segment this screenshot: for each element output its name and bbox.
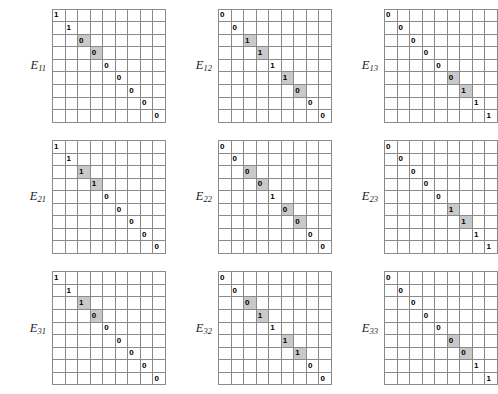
matrix-cell-value: 0 [320,375,324,383]
matrix-cell [435,310,448,323]
matrix-cell-diagonal: 0 [435,323,448,336]
matrix-cell [473,85,486,98]
matrix-cell [282,272,295,285]
matrix-label-e21: E21 [0,189,52,204]
matrix-cell [66,373,79,386]
matrix-cell-diagonal: 0 [219,10,232,23]
matrix-cell [307,47,320,60]
matrix-cell-diagonal: 0 [385,10,398,23]
matrix-cell-value: 0 [104,324,108,332]
matrix-cell [307,35,320,48]
matrix-cell [398,85,411,98]
matrix-cell [282,166,295,179]
matrix-cell [244,373,257,386]
matrix-cell [66,348,79,361]
matrix-cell [91,141,104,154]
matrix-cell [269,216,282,229]
matrix-cell [460,35,473,48]
matrix-cell [116,272,129,285]
matrix-cell [448,297,461,310]
matrix-cell [257,216,270,229]
matrix-label-base: E [362,321,370,335]
matrix-cell [153,60,166,73]
matrix-cell [103,272,116,285]
matrix-cell [66,110,79,123]
matrix-label-base: E [30,58,38,72]
matrix-cell [153,323,166,336]
matrix-cell [103,360,116,373]
matrix-cell [53,335,66,348]
matrix-cell [423,154,436,167]
matrix-cell [385,335,398,348]
matrix-cell [385,360,398,373]
matrix-cell-value: 1 [461,87,465,95]
matrix-cell [53,47,66,60]
matrix-cell [410,10,423,23]
matrix-cell [398,272,411,285]
matrix-cell [294,297,307,310]
matrix-cell-diagonal: 0 [153,241,166,254]
matrix-cell-diagonal: 0 [232,285,245,298]
matrix-cell-diagonal: 0 [307,360,320,373]
matrix-cell [78,335,91,348]
matrix-cell [319,98,332,111]
matrix-cell [448,10,461,23]
matrix-cell [78,72,91,85]
matrix-cell [116,229,129,242]
matrix-cell [485,60,498,73]
matrix-cell [128,110,141,123]
matrix-cell [91,204,104,217]
matrix-cell-value: 0 [92,49,96,57]
matrix-cell [269,373,282,386]
matrix-cell [307,72,320,85]
matrix-cell [269,297,282,310]
matrix-cell [435,10,448,23]
matrix-cell [460,179,473,192]
matrix-cell [219,179,232,192]
matrix-cell [410,348,423,361]
matrix-cell [473,191,486,204]
matrix-cell [103,310,116,323]
matrix-cell [232,323,245,336]
matrix-cell [128,272,141,285]
matrix-cell [282,360,295,373]
matrix-cell-diagonal: 0 [128,85,141,98]
matrix-cell [269,204,282,217]
matrix-cell [244,285,257,298]
matrix-cell [398,10,411,23]
matrix-cell [141,110,154,123]
matrix-cell-diagonal: 0 [91,47,104,60]
matrix-cell [294,10,307,23]
matrix-cell [53,85,66,98]
matrix-cell-value: 0 [104,193,108,201]
matrix-cell-diagonal: 1 [91,179,104,192]
matrix-cell-diagonal: 1 [53,10,66,23]
matrix-cell [485,297,498,310]
matrix-cell [269,10,282,23]
matrix-cell [141,310,154,323]
matrix-cell [91,166,104,179]
matrix-cell [78,216,91,229]
matrix-cell [385,191,398,204]
matrix-cell [385,241,398,254]
matrix-cell [460,241,473,254]
matrix-cell [398,310,411,323]
matrix-cell [128,154,141,167]
matrix-cell-value: 1 [474,362,478,370]
matrix-cell-diagonal: 0 [116,72,129,85]
matrix-cell [103,229,116,242]
matrix-cell [244,154,257,167]
matrix-cell-value: 0 [233,24,237,32]
matrix-cell [153,335,166,348]
matrix-cell-value: 0 [154,243,158,251]
matrix-cell [244,323,257,336]
matrix-cell [435,47,448,60]
matrix-cell [410,22,423,35]
matrix-cell [153,229,166,242]
matrix-cell [128,204,141,217]
matrix-cell [53,297,66,310]
matrix-cell [307,272,320,285]
matrix-cell-diagonal: 0 [257,179,270,192]
matrix-cell-diagonal: 0 [219,141,232,154]
matrix-cell [116,141,129,154]
